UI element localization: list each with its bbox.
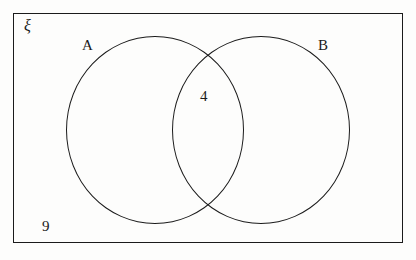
venn-diagram: ξ A B 4 9 [0,0,416,260]
set-b-label: B [318,38,328,53]
set-b-circle [172,36,350,224]
intersection-count-label: 4 [200,89,208,104]
outside-count-label: 9 [42,219,50,234]
universal-set-label: ξ [24,18,31,34]
set-a-label: A [82,38,93,53]
